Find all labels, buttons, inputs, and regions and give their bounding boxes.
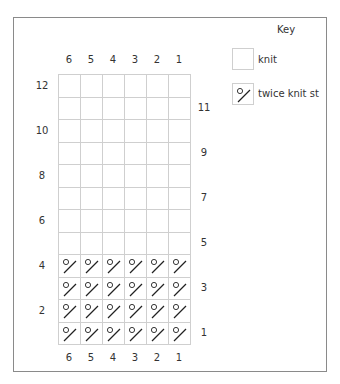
chart-cell: [103, 278, 125, 301]
chart-cell: [169, 323, 191, 346]
chart-cell: [125, 210, 147, 233]
row-number-right: 11: [194, 102, 214, 113]
circle-slash-icon: [171, 302, 189, 320]
chart-cell: [125, 143, 147, 166]
chart-cell: [147, 75, 169, 98]
column-number-top: 5: [80, 54, 102, 65]
column-number-bottom: 3: [124, 352, 146, 363]
column-number-bottom: 5: [80, 352, 102, 363]
chart-cell: [103, 188, 125, 211]
chart-cell: [59, 165, 81, 188]
column-number-top: 3: [124, 54, 146, 65]
chart-cell: [147, 120, 169, 143]
chart-cell: [103, 233, 125, 256]
circle-slash-icon: [105, 302, 123, 320]
column-number-bottom: 6: [58, 352, 80, 363]
circle-slash-icon: [149, 257, 167, 275]
chart-cell: [125, 98, 147, 121]
circle-slash-icon: [171, 325, 189, 343]
chart-cell: [103, 120, 125, 143]
chart-cell: [59, 233, 81, 256]
column-number-bottom: 1: [168, 352, 190, 363]
circle-slash-icon: [149, 302, 167, 320]
chart-cell: [81, 143, 103, 166]
chart-cell: [103, 323, 125, 346]
chart-cell: [125, 120, 147, 143]
key-title: Key: [277, 24, 295, 35]
chart-cell: [59, 255, 81, 278]
chart-cell: [147, 188, 169, 211]
circle-slash-icon: [235, 86, 253, 104]
key-twice-knit-symbol: [232, 83, 254, 105]
chart-cell: [81, 300, 103, 323]
knitting-chart-grid: [58, 74, 191, 345]
chart-cell: [125, 165, 147, 188]
row-number-right: 7: [194, 192, 214, 203]
column-number-bottom: 2: [146, 352, 168, 363]
chart-cell: [103, 165, 125, 188]
chart-cell: [147, 165, 169, 188]
chart-cell: [125, 278, 147, 301]
column-number-top: 1: [168, 54, 190, 65]
key-twice-knit-label: twice knit st: [258, 88, 319, 99]
chart-cell: [169, 98, 191, 121]
chart-cell: [125, 233, 147, 256]
chart-cell: [81, 165, 103, 188]
row-number-left: 8: [32, 170, 52, 181]
chart-cell: [81, 255, 103, 278]
chart-cell: [169, 278, 191, 301]
chart-cell: [81, 188, 103, 211]
chart-cell: [147, 323, 169, 346]
chart-cell: [125, 75, 147, 98]
chart-cell: [125, 300, 147, 323]
key-knit-symbol: [232, 48, 254, 70]
circle-slash-icon: [127, 280, 145, 298]
chart-cell: [169, 210, 191, 233]
chart-cell: [147, 300, 169, 323]
circle-slash-icon: [61, 280, 79, 298]
chart-cell: [59, 143, 81, 166]
chart-cell: [169, 188, 191, 211]
chart-cell: [169, 143, 191, 166]
row-number-right: 1: [194, 327, 214, 338]
chart-cell: [81, 233, 103, 256]
circle-slash-icon: [105, 257, 123, 275]
chart-cell: [59, 323, 81, 346]
column-number-top: 4: [102, 54, 124, 65]
circle-slash-icon: [61, 257, 79, 275]
chart-cell: [81, 210, 103, 233]
chart-cell: [59, 210, 81, 233]
chart-cell: [147, 143, 169, 166]
chart-cell: [81, 278, 103, 301]
circle-slash-icon: [149, 280, 167, 298]
chart-cell: [169, 233, 191, 256]
row-number-right: 3: [194, 282, 214, 293]
row-number-left: 2: [32, 305, 52, 316]
chart-cell: [59, 75, 81, 98]
chart-cell: [169, 255, 191, 278]
key-knit-label: knit: [258, 54, 277, 65]
column-number-top: 6: [58, 54, 80, 65]
circle-slash-icon: [127, 302, 145, 320]
chart-cell: [147, 278, 169, 301]
chart-cell: [103, 255, 125, 278]
chart-cell: [147, 98, 169, 121]
chart-cell: [147, 255, 169, 278]
row-number-left: 12: [32, 80, 52, 91]
circle-slash-icon: [171, 257, 189, 275]
chart-cell: [147, 210, 169, 233]
chart-cell: [125, 323, 147, 346]
circle-slash-icon: [127, 325, 145, 343]
row-number-right: 5: [194, 237, 214, 248]
chart-cell: [125, 188, 147, 211]
row-number-left: 6: [32, 215, 52, 226]
circle-slash-icon: [105, 280, 123, 298]
chart-cell: [169, 120, 191, 143]
circle-slash-icon: [127, 257, 145, 275]
chart-cell: [81, 75, 103, 98]
circle-slash-icon: [105, 325, 123, 343]
circle-slash-icon: [83, 280, 101, 298]
column-number-bottom: 4: [102, 352, 124, 363]
chart-cell: [103, 210, 125, 233]
chart-cell: [81, 98, 103, 121]
